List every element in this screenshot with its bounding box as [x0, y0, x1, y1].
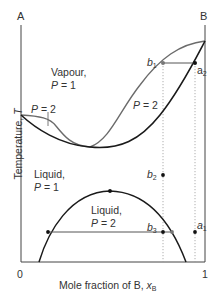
dome-region-label-2: P = 2: [91, 217, 116, 229]
x-axis-label: Mole fraction of B, xB: [59, 279, 156, 291]
y-axis-label: Temperature, T: [12, 94, 24, 194]
right-lens-P: P: [133, 99, 140, 111]
b3-sub: 3: [153, 227, 157, 234]
label-b3: b3: [147, 221, 157, 237]
point-b2: [161, 173, 165, 177]
dome-right-point: [170, 230, 174, 234]
x-tick-0: 0: [17, 268, 23, 280]
vapour-P-value: = 1: [58, 79, 76, 91]
a2-sub: 2: [203, 70, 207, 77]
vapour-region-label-1: Vapour,: [51, 66, 86, 78]
dome-P-value: = 2: [98, 217, 116, 229]
vapour-curve: [21, 41, 205, 147]
b2-sub: 2: [153, 174, 157, 181]
right-lens-P-value: = 2: [140, 99, 158, 111]
label-B: B: [200, 10, 207, 22]
phase-diagram-svg: [0, 0, 216, 291]
vapour-region-label-2: P = 1: [51, 79, 76, 91]
label-A: A: [17, 10, 24, 22]
liquid-P-value: = 1: [41, 181, 59, 193]
liquid-curve: [21, 41, 205, 148]
label-a1: a1: [197, 219, 207, 235]
right-lens-label: P = 2: [133, 99, 158, 111]
dome-P: P: [91, 217, 98, 229]
point-b1: [161, 61, 165, 65]
a1-sub: 1: [203, 225, 207, 232]
dome-region-label-1: Liquid,: [91, 204, 122, 216]
label-a2: a2: [197, 64, 207, 80]
point-b3: [161, 230, 165, 234]
liquid-region-label-1: Liquid,: [34, 168, 65, 180]
dome-peak-point: [108, 189, 112, 193]
left-lens-P-value: = 2: [38, 103, 56, 115]
left-lens-P: P: [31, 103, 38, 115]
liquid-region-label-2: P = 1: [34, 181, 59, 193]
y-label-var: T: [12, 108, 24, 114]
left-lens-label: P = 2: [31, 103, 56, 115]
liquid-P: P: [34, 181, 41, 193]
x-label-sub: B: [152, 285, 157, 291]
label-b2: b2: [147, 168, 157, 184]
dome-left-point: [46, 230, 50, 234]
vapour-P: P: [51, 79, 58, 91]
y-label-text: Temperature,: [12, 115, 24, 180]
b1-sub: 1: [153, 62, 157, 69]
label-b1: b1: [147, 56, 157, 72]
phase-diagram: A B 0 1 Mole fraction of B, xB Temperatu…: [0, 0, 216, 291]
x-label-text: Mole fraction of B,: [59, 279, 147, 291]
x-tick-1: 1: [202, 268, 208, 280]
